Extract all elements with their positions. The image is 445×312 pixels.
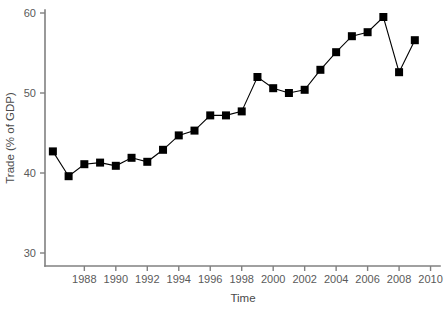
data-point-marker: [112, 162, 120, 170]
trade-series-markers: [49, 13, 419, 180]
x-tick-label: 1992: [135, 273, 159, 285]
x-tick-label: 1998: [229, 273, 253, 285]
y-tick-label: 60: [24, 7, 36, 19]
x-tick-label: 2008: [387, 273, 411, 285]
data-point-marker: [348, 32, 356, 40]
x-tick-label: 2002: [292, 273, 316, 285]
y-tick-label: 30: [24, 247, 36, 259]
data-point-marker: [364, 28, 372, 36]
data-point-marker: [159, 146, 167, 154]
data-point-marker: [379, 13, 387, 21]
data-point-marker: [175, 131, 183, 139]
x-tick-label: 2006: [355, 273, 379, 285]
data-point-marker: [65, 172, 73, 180]
y-tick-label: 40: [24, 167, 36, 179]
data-point-marker: [80, 160, 88, 168]
data-point-marker: [49, 147, 57, 155]
x-tick-label: 1990: [104, 273, 128, 285]
data-point-marker: [143, 158, 151, 166]
data-point-marker: [301, 86, 309, 94]
x-tick-label: 1996: [198, 273, 222, 285]
data-point-marker: [206, 111, 214, 119]
y-tick-label: 50: [24, 87, 36, 99]
data-point-marker: [191, 127, 199, 135]
y-axis-title: Trade (% of GDP): [4, 92, 16, 184]
x-tick-label: 2004: [324, 273, 348, 285]
chart-figure: 30405060 1988199019921994199619982000200…: [0, 0, 445, 312]
x-tick-label: 1988: [72, 273, 96, 285]
data-point-marker: [395, 68, 403, 76]
x-axis-ticks: 1988199019921994199619982000200220042006…: [72, 266, 443, 285]
chart-axes: [45, 10, 440, 266]
x-tick-label: 2000: [261, 273, 285, 285]
data-point-marker: [222, 111, 230, 119]
data-point-marker: [316, 66, 324, 74]
data-point-marker: [238, 107, 246, 115]
data-point-marker: [96, 159, 104, 167]
data-point-marker: [285, 89, 293, 97]
trade-series-line: [53, 17, 415, 176]
x-tick-label: 1994: [167, 273, 191, 285]
data-point-marker: [411, 36, 419, 44]
data-point-marker: [253, 73, 261, 81]
x-tick-label: 2010: [418, 273, 442, 285]
data-point-marker: [269, 84, 277, 92]
x-axis-title: Time: [230, 292, 255, 304]
y-axis-ticks: 30405060: [24, 7, 45, 259]
data-point-marker: [128, 154, 136, 162]
line-chart-canvas: 30405060 1988199019921994199619982000200…: [0, 0, 445, 312]
data-point-marker: [332, 48, 340, 56]
